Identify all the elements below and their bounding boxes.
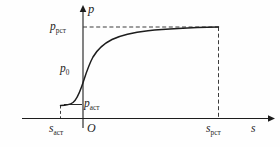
origin-label: O	[87, 122, 96, 134]
label-s-ast-subscript: аст	[53, 129, 63, 137]
label-p-ast-base: p	[84, 97, 90, 109]
label-p-zero-base: p	[60, 62, 66, 74]
figure-pressure-vs-displacement: p s O pрст p0 pаст sаст sрст	[0, 0, 280, 147]
plot-canvas	[0, 0, 280, 147]
pressure-curve	[61, 27, 219, 105]
y-axis-label: p	[88, 3, 94, 16]
label-p-zero-subscript: 0	[66, 69, 70, 77]
label-s-rst: sрст	[206, 123, 221, 135]
label-p-rst: pрст	[50, 21, 66, 33]
label-p-rst-base: p	[50, 20, 56, 32]
label-p-zero: p0	[60, 63, 69, 75]
label-s-rst-subscript: рст	[210, 129, 220, 137]
x-axis-arrow-icon	[268, 115, 275, 122]
label-p-rst-subscript: рст	[56, 27, 66, 35]
label-p-ast: pаст	[84, 98, 100, 110]
y-axis-arrow-icon	[80, 5, 87, 12]
label-p-ast-subscript: аст	[90, 104, 100, 112]
label-s-ast: sаст	[49, 123, 63, 135]
x-axis-label: s	[251, 123, 255, 135]
